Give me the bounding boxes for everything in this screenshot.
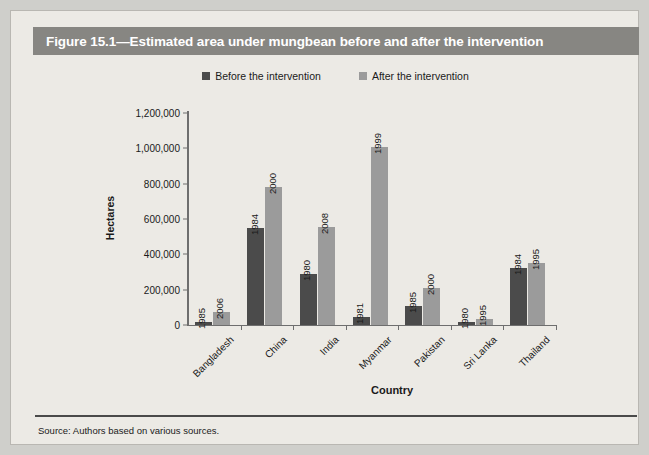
source-note: Source: Authors based on various sources… — [38, 425, 219, 436]
x-tick-mark — [241, 325, 242, 330]
bar-thailand-before — [510, 268, 527, 325]
bar-year-label: 1984 — [512, 253, 523, 274]
y-tick-mark — [183, 289, 188, 290]
x-tick-mark — [556, 325, 557, 330]
bar-india-before — [300, 274, 317, 325]
figure-frame: Figure 15.1—Estimated area under mungbea… — [10, 10, 639, 445]
x-category-label-bangladesh: Bangladesh — [228, 334, 236, 342]
x-tick-mark — [398, 325, 399, 330]
bar-year-label: 2000 — [425, 274, 436, 295]
y-tick-label: 600,000 — [106, 214, 180, 225]
bar-year-label: 1980 — [459, 308, 470, 329]
x-tick-mark — [503, 325, 504, 330]
x-category-label-china: China — [281, 334, 289, 342]
divider — [35, 415, 637, 417]
x-category-label-sri-lanka: Sri Lanka — [491, 334, 499, 342]
x-tick-mark — [451, 325, 452, 330]
bar-year-label: 1980 — [301, 260, 312, 281]
x-axis-title: Country — [371, 384, 413, 396]
y-tick-mark — [183, 254, 188, 255]
x-category-label-text: Pakistan — [411, 334, 446, 369]
y-tick-mark — [183, 219, 188, 220]
bar-year-label: 2000 — [267, 173, 278, 194]
y-tick-label: 1,200,000 — [106, 108, 180, 119]
bar-year-label: 2008 — [319, 213, 330, 234]
bar-year-label: 1981 — [354, 303, 365, 324]
bar-year-label: 1995 — [530, 249, 541, 270]
x-category-label-thailand: Thailand — [544, 334, 552, 342]
bar-india-after — [318, 227, 335, 325]
y-tick-label: 0 — [106, 320, 180, 331]
chart-plot-area: Hectares Country 0200,000400,000600,0008… — [11, 11, 649, 455]
y-tick-label: 200,000 — [106, 284, 180, 295]
x-tick-mark — [346, 325, 347, 330]
bar-myanmar-after — [371, 147, 388, 325]
bar-year-label: 1984 — [249, 214, 260, 235]
y-tick-label: 400,000 — [106, 249, 180, 260]
y-tick-mark — [183, 325, 188, 326]
x-category-label-text: Bangladesh — [191, 334, 236, 379]
x-category-label-text: China — [262, 334, 288, 360]
x-category-label-text: India — [318, 334, 341, 357]
y-tick-label: 1,000,000 — [106, 143, 180, 154]
x-tick-mark — [293, 325, 294, 330]
bar-year-label: 1985 — [407, 291, 418, 312]
bar-year-label: 1985 — [196, 308, 207, 329]
bar-thailand-after — [528, 263, 545, 325]
bar-year-label: 2006 — [214, 298, 225, 319]
bar-china-after — [265, 187, 282, 325]
y-tick-mark — [183, 113, 188, 114]
y-tick-label: 800,000 — [106, 178, 180, 189]
x-category-label-myanmar: Myanmar — [386, 334, 394, 342]
x-category-label-text: Thailand — [517, 334, 552, 369]
x-category-label-text: Sri Lanka — [461, 334, 499, 372]
bar-year-label: 1995 — [477, 305, 488, 326]
bar-china-before — [247, 228, 264, 325]
x-category-label-pakistan: Pakistan — [439, 334, 447, 342]
y-tick-mark — [183, 183, 188, 184]
x-category-label-text: Myanmar — [357, 334, 394, 371]
x-category-label-india: India — [333, 334, 341, 342]
y-tick-mark — [183, 148, 188, 149]
bar-year-label: 1999 — [372, 132, 383, 153]
